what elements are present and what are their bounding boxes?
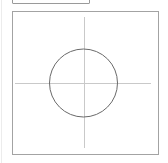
left-edge-rule <box>1 0 2 163</box>
drawing-canvas-frame[interactable] <box>12 11 159 155</box>
top-panel-box <box>12 0 90 4</box>
